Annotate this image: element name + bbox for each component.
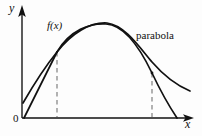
intersection-point-left bbox=[56, 51, 58, 53]
figure-background bbox=[0, 0, 202, 136]
y-axis-label: y bbox=[9, 2, 14, 14]
function-parabola-diagram bbox=[0, 0, 202, 136]
intersection-point-right bbox=[151, 72, 154, 75]
function-label: f(x) bbox=[47, 20, 62, 31]
x-axis-label: x bbox=[185, 118, 190, 130]
parabola-label: parabola bbox=[136, 30, 174, 41]
origin-label: 0 bbox=[13, 113, 19, 124]
